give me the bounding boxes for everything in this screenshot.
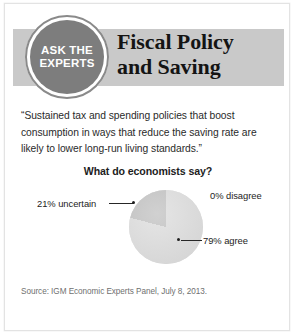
pie-circle: [129, 190, 203, 264]
pie-leader-dot-uncertain: [132, 201, 135, 204]
chart-question-heading: What do economists say?: [5, 165, 290, 177]
pie-chart: 21% uncertain 0% disagree 79% agree: [5, 184, 290, 276]
pie-label-agree: 79% agree: [203, 235, 248, 246]
pie-slice-uncertain: [129, 190, 203, 264]
pie-label-disagree: 0% disagree: [210, 190, 262, 201]
expert-quote: “Sustained tax and spending policies tha…: [21, 108, 273, 158]
ask-the-experts-card: ASK THE EXPERTS Fiscal Policy and Saving…: [4, 3, 290, 331]
page-title-line-2: and Saving: [117, 55, 285, 80]
pie-leader-line-uncertain: [109, 203, 134, 204]
page-title-line-1: Fiscal Policy: [117, 30, 285, 55]
pie-label-uncertain: 21% uncertain: [37, 198, 96, 209]
badge-fill: ASK THE EXPERTS: [30, 20, 104, 94]
badge-line-1: ASK THE: [41, 44, 93, 57]
ask-the-experts-badge: ASK THE EXPERTS: [25, 15, 109, 99]
pie-leader-line-agree: [181, 240, 202, 241]
source-note: Source: IGM Economic Experts Panel, July…: [21, 287, 271, 296]
page-title: Fiscal Policy and Saving: [117, 30, 285, 80]
badge-line-2: EXPERTS: [39, 57, 94, 70]
card-header: ASK THE EXPERTS Fiscal Policy and Saving: [5, 4, 290, 104]
